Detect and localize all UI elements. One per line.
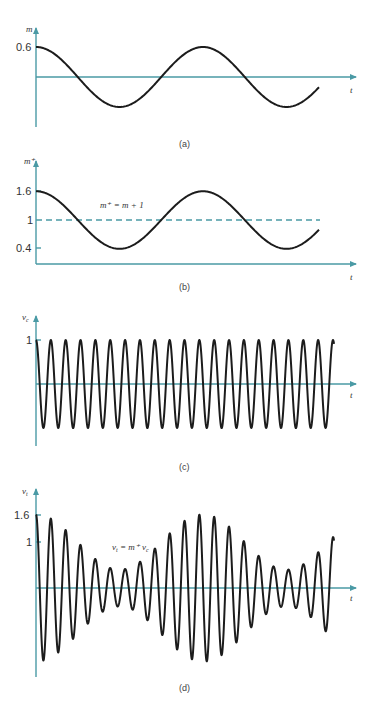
- caption-c: (c): [179, 462, 190, 472]
- tick-label-1: 1: [26, 536, 32, 548]
- tick-label-1.6: 1.6: [14, 509, 29, 521]
- t-axis-label: t: [350, 85, 353, 95]
- t-axis-label: t: [350, 272, 353, 282]
- caption-d: (d): [179, 683, 190, 693]
- y-axis-label: m⁺: [24, 156, 36, 166]
- tick-label-1.6: 1.6: [16, 185, 31, 197]
- formula-vt: vt = m⁺ vc: [112, 542, 149, 553]
- tick-label-1: 1: [27, 214, 33, 226]
- tick-label-0.4: 0.4: [16, 242, 31, 254]
- panel-a: m t 0.6 (a): [16, 24, 356, 149]
- panel-d: vt t 1.6 1 vt = m⁺ vc (d): [14, 486, 356, 693]
- caption-b: (b): [179, 282, 190, 292]
- t-axis-label: t: [350, 390, 353, 400]
- y-axis-label: vt: [22, 486, 28, 497]
- formula-m-plus: m⁺ = m + 1: [100, 200, 144, 210]
- t-axis-label: t: [350, 593, 353, 603]
- y-axis-label: vc: [22, 312, 29, 323]
- tick-label-1: 1: [26, 334, 32, 346]
- tick-label-0.6: 0.6: [16, 41, 31, 53]
- am-modulation-figure: m t 0.6 (a) m⁺ t 1.6 1 0.4 m⁺ = m + 1 (b…: [0, 0, 370, 710]
- panel-c: vc t 1 (c): [22, 312, 356, 472]
- y-axis-label: m: [26, 24, 33, 34]
- caption-a: (a): [179, 139, 190, 149]
- panel-b: m⁺ t 1.6 1 0.4 m⁺ = m + 1 (b): [16, 156, 356, 292]
